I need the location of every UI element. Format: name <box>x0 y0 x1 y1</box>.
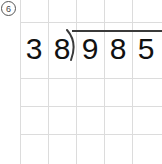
problem-number-badge: 6 <box>1 1 16 16</box>
grid-hline <box>20 106 162 107</box>
divisor-digit-1: 3 <box>20 34 48 64</box>
grid-vline <box>132 0 133 164</box>
dividend-digit-1: 9 <box>76 34 104 64</box>
grid-hline <box>20 134 162 135</box>
dividend-digit-2: 8 <box>104 34 132 64</box>
grid-hline <box>20 78 162 79</box>
grid-vline <box>20 0 21 164</box>
grid-background <box>0 0 162 164</box>
dividend-digit-3: 5 <box>132 34 160 64</box>
worksheet-page: 6 3 8 9 8 5 <box>0 0 162 164</box>
grid-vline <box>76 0 77 164</box>
grid-vline <box>104 0 105 164</box>
grid-vline <box>48 0 49 164</box>
grid-hline <box>20 22 162 23</box>
